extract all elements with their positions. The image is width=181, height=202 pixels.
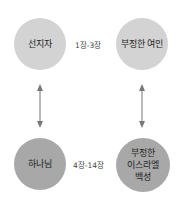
node-unfaithful-woman: 부정한 여인 <box>116 18 168 70</box>
node-god-label: 하나님 <box>28 158 52 170</box>
node-unfaithful-israel-line2: 이스라엘 <box>127 159 159 171</box>
node-unfaithful-israel-line1: 부정한 <box>131 147 155 159</box>
double-arrow-left <box>34 84 46 128</box>
edge-label-chapters-1-3: 1장-3장 <box>75 39 101 50</box>
node-prophet: 선지자 <box>14 18 66 70</box>
node-prophet-label: 선지자 <box>28 38 52 50</box>
double-arrow-right <box>136 84 148 128</box>
node-unfaithful-woman-label: 부정한 여인 <box>121 38 164 50</box>
node-god: 하나님 <box>14 138 66 190</box>
node-unfaithful-israel: 부정한 이스라엘 백성 <box>116 138 170 192</box>
node-unfaithful-israel-line3: 백성 <box>135 171 151 183</box>
edge-label-chapters-4-14: 4장-14장 <box>73 159 104 170</box>
